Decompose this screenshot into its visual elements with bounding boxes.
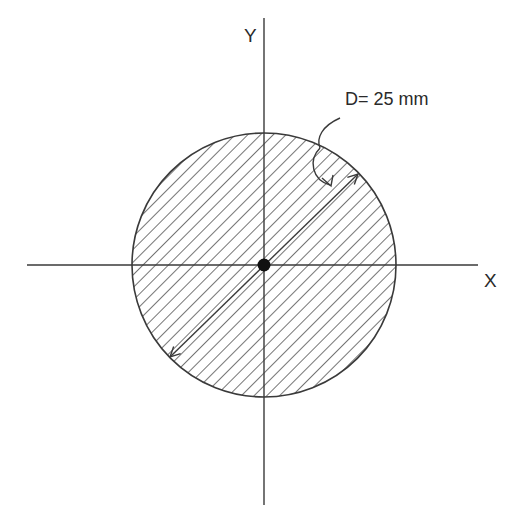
- y-axis-label: Y: [244, 25, 257, 46]
- circular-section-diagram: Y X D= 25 mm: [0, 0, 526, 528]
- centroid-dot: [258, 259, 271, 272]
- x-axis-label: X: [484, 270, 497, 291]
- leader-top: [319, 118, 340, 148]
- diameter-label: D= 25 mm: [345, 89, 429, 109]
